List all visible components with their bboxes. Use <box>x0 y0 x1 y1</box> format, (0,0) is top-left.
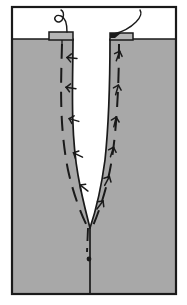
air-region <box>12 7 176 39</box>
tip-point-marker <box>87 257 92 262</box>
left-surface-instrument <box>49 32 73 40</box>
figure-root <box>0 0 187 305</box>
cross-section-diagram <box>0 0 187 305</box>
center-dashed-line <box>87 228 88 252</box>
